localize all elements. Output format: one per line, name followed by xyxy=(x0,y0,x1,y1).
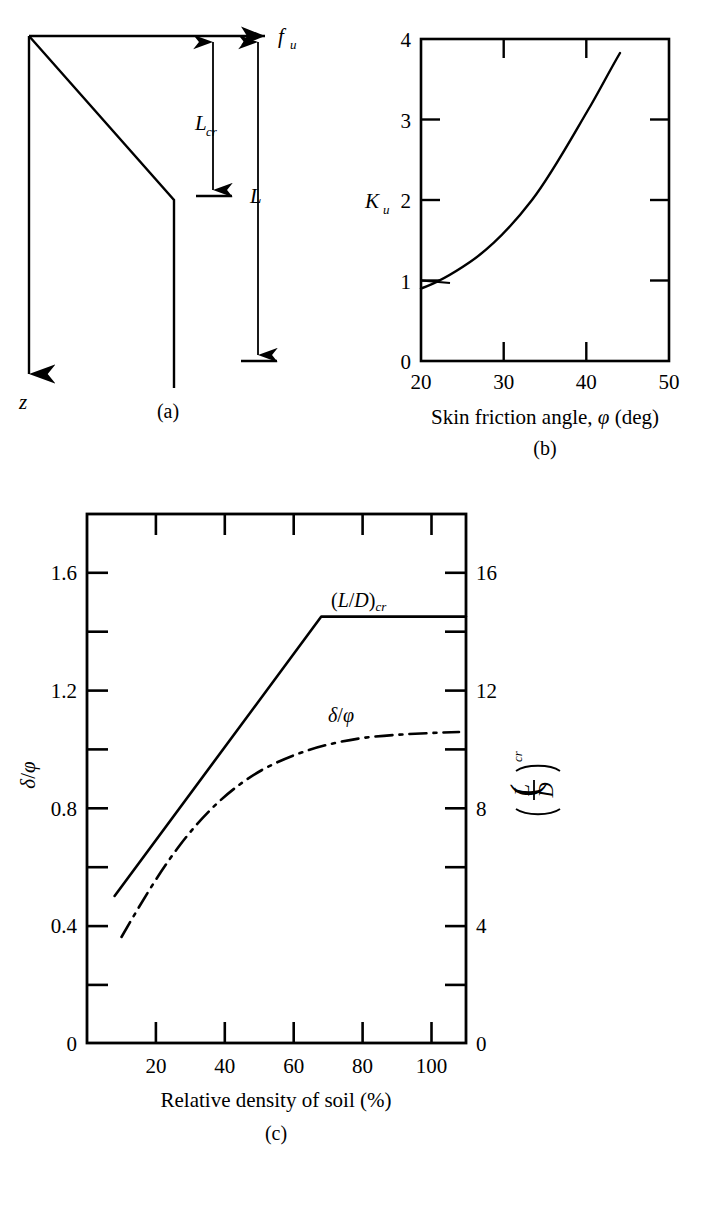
svg-text:L: L xyxy=(510,784,534,797)
panel-c: 1.6 1.2 0.8 0.4 0 16 12 8 4 0 20 40 60 8… xyxy=(0,0,703,1220)
panel-c-y-axis-title-right-decor: cr xyxy=(510,750,560,814)
panel-c-label-ld-cr: (L/D)cr xyxy=(331,589,387,614)
panel-c-plot-frame xyxy=(87,514,466,1043)
panel-c-x-axis-title: Relative density of soil (%) xyxy=(161,1088,392,1112)
panel-c-ytick-right-8: 8 xyxy=(476,797,487,821)
svg-text:D: D xyxy=(534,782,558,798)
panel-c-xtick-40: 40 xyxy=(214,1054,235,1078)
panel-c-ytick-left-0_8: 0.8 xyxy=(51,797,77,821)
panel-c-ytick-left-1_2: 1.2 xyxy=(51,679,77,703)
panel-c-ytick-right-0: 0 xyxy=(476,1032,487,1056)
panel-c-label-delta-phi: δ/φ xyxy=(328,704,354,727)
panel-c-caption: (c) xyxy=(265,1122,287,1145)
panel-c-xtick-100: 100 xyxy=(416,1054,448,1078)
panel-c-y-axis-title-right: ( L D xyxy=(502,780,558,800)
panel-c-xtick-60: 60 xyxy=(283,1054,304,1078)
figure-container: z f u L cr L (a) xyxy=(0,0,703,1220)
panel-c-y-ticks-right xyxy=(445,573,466,985)
panel-c-x-ticks-bottom xyxy=(156,1022,432,1043)
svg-text:cr: cr xyxy=(510,750,525,762)
panel-c-ytick-right-4: 4 xyxy=(476,914,487,938)
panel-c-ytick-left-0_4: 0.4 xyxy=(51,914,78,938)
panel-c-xtick-80: 80 xyxy=(352,1054,373,1078)
panel-c-ytick-right-16: 16 xyxy=(476,561,497,585)
panel-c-ytick-left-1_6: 1.6 xyxy=(51,561,77,585)
panel-c-curve-delta-phi xyxy=(122,732,460,937)
panel-c-y-axis-title-left: δ/φ xyxy=(16,761,40,789)
panel-c-ytick-left-0: 0 xyxy=(67,1032,78,1056)
panel-c-x-ticks-top xyxy=(156,514,432,535)
panel-c-xtick-20: 20 xyxy=(145,1054,166,1078)
panel-c-y-ticks-left xyxy=(87,573,108,985)
panel-c-ytick-right-12: 12 xyxy=(476,679,497,703)
